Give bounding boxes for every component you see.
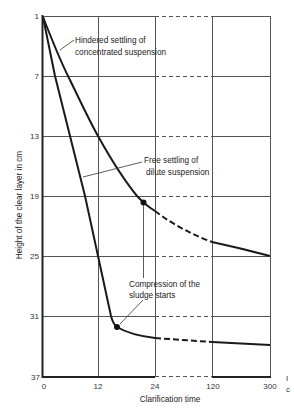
svg-text:24: 24 bbox=[151, 382, 160, 391]
svg-text:7: 7 bbox=[35, 72, 40, 81]
marker-hindered-compression bbox=[141, 200, 147, 206]
svg-text:0: 0 bbox=[42, 382, 47, 391]
y-axis-title: Height of the clear layer in cm bbox=[15, 151, 24, 259]
svg-text:Free settling of: Free settling of bbox=[144, 156, 199, 165]
svg-text:13: 13 bbox=[30, 132, 39, 141]
svg-text:25: 25 bbox=[30, 252, 39, 261]
grid-horizontal-solid bbox=[42, 17, 271, 317]
svg-text:300: 300 bbox=[263, 382, 277, 391]
svg-text:sludge starts: sludge starts bbox=[129, 291, 175, 300]
svg-text:Compression of the: Compression of the bbox=[129, 280, 200, 289]
svg-text:19: 19 bbox=[30, 192, 39, 201]
settling-chart: 1 7 13 19 25 31 37 0 12 24 120 300 Clari… bbox=[0, 0, 294, 411]
annotation-free: Free settling of dilute suspension bbox=[144, 156, 210, 177]
svg-text:31: 31 bbox=[30, 312, 39, 321]
svg-text:37: 37 bbox=[31, 373, 40, 382]
x-axis-title: Clarification time bbox=[140, 395, 201, 404]
cropped-edge-glyph: I bbox=[286, 374, 288, 383]
x-tick-labels: 0 12 24 120 300 bbox=[42, 382, 277, 391]
svg-text:1: 1 bbox=[35, 12, 40, 21]
annotation-compression: Compression of the sludge starts bbox=[129, 280, 200, 300]
svg-text:dilute suspension: dilute suspension bbox=[146, 168, 210, 177]
annotation-hindered: Hindered settling of concentrated suspen… bbox=[75, 36, 166, 57]
grid-horizontal-dashed bbox=[155, 17, 212, 377]
svg-text:120: 120 bbox=[206, 382, 220, 391]
svg-text:Hindered settling of: Hindered settling of bbox=[75, 36, 146, 45]
svg-text:12: 12 bbox=[94, 382, 103, 391]
marker-free-compression bbox=[114, 324, 120, 330]
y-tick-labels: 1 7 13 19 25 31 37 bbox=[30, 12, 40, 382]
svg-text:concentrated suspension: concentrated suspension bbox=[75, 48, 166, 57]
cropped-edge-glyph: c bbox=[286, 385, 290, 394]
